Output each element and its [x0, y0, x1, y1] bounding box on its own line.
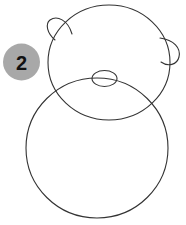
- step-badge-label: 2: [16, 52, 27, 74]
- drawing-illustration: 2: [0, 0, 186, 225]
